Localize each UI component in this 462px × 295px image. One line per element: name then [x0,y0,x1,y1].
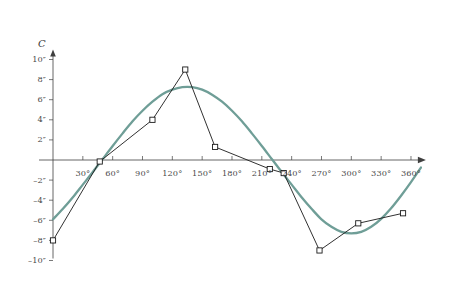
data-point-marker [97,159,102,164]
data-point-marker [50,238,55,243]
y-tick-label: 10″ [5,54,46,64]
data-point-marker [150,117,155,122]
x-tick-label: 360° [394,168,428,178]
y-tick-label: 2″ [5,134,46,144]
y-tick-label: 6″ [5,94,46,104]
y-tick-label: –10″ [5,255,46,265]
data-point-marker [212,144,217,149]
y-axis-label: C [38,38,46,49]
data-point-marker [356,221,361,226]
data-point-marker [183,67,188,72]
y-tick-label: –2″ [5,175,46,185]
chart-container: C 10″8″6″4″2″–2″–4″–6″–8″–10″ 30°60°90°1… [0,0,462,295]
y-tick-label: 8″ [5,74,46,84]
chart-plot-area [0,0,462,295]
data-point-marker [400,211,405,216]
y-tick-label: –4″ [5,195,46,205]
y-tick-label: –6″ [5,215,46,225]
data-point-marker [317,248,322,253]
y-tick-label: 4″ [5,114,46,124]
y-tick-label: –8″ [5,235,46,245]
